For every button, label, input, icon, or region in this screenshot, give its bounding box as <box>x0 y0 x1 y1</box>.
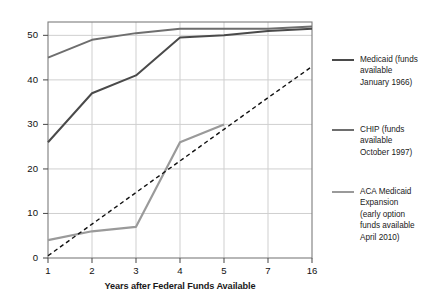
legend-label-aca-line4: funds available <box>360 220 428 231</box>
y-tick-label: 30 <box>12 118 38 129</box>
x-tick-label: 7 <box>255 265 281 276</box>
legend-label-medicaid-line1: Medicaid (funds <box>360 54 428 65</box>
legend-swatch-medicaid <box>332 59 354 61</box>
legend-label-aca-line3: (early option <box>360 209 428 220</box>
y-tick-label: 40 <box>12 74 38 85</box>
legend-swatch-aca <box>332 191 354 193</box>
y-tick-label: 10 <box>12 207 38 218</box>
x-tick-label: 4 <box>167 265 193 276</box>
legend-label-medicaid-line3: January 1966) <box>360 77 428 88</box>
legend-swatch-chip <box>332 129 354 131</box>
legend-label-chip-line2: available <box>360 135 428 146</box>
x-tick-label: 2 <box>79 265 105 276</box>
x-tick-label: 5 <box>211 265 237 276</box>
legend-label-medicaid-line2: available <box>360 65 428 76</box>
y-tick-label: 20 <box>12 163 38 174</box>
x-tick-label: 3 <box>123 265 149 276</box>
legend-label-aca-line2: Expansion <box>360 197 428 208</box>
x-tick-label: 16 <box>299 265 325 276</box>
chart-figure: Total States Adopting/Expanding Medicaid… <box>0 0 428 303</box>
legend-label-medicaid: Medicaid (funds available January 1966) <box>360 54 428 88</box>
legend-label-chip: CHIP (funds available October 1997) <box>360 124 428 158</box>
legend-label-aca-line1: ACA Medicaid <box>360 186 428 197</box>
x-tick-label: 1 <box>35 265 61 276</box>
legend-label-chip-line3: October 1997) <box>360 147 428 158</box>
legend-label-aca-line5: April 2010) <box>360 232 428 243</box>
legend-label-chip-line1: CHIP (funds <box>360 124 428 135</box>
y-tick-label: 50 <box>12 29 38 40</box>
legend-label-aca: ACA Medicaid Expansion (early option fun… <box>360 186 428 243</box>
y-tick-label: 0 <box>12 252 38 263</box>
